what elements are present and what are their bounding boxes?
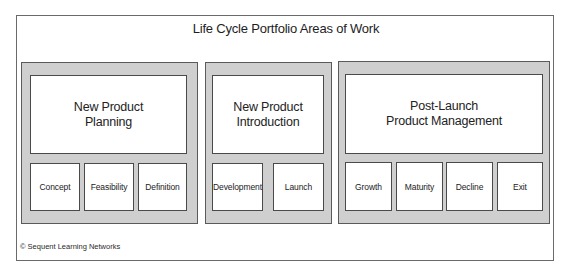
- phase-label: Launch: [285, 182, 312, 192]
- phase-decline: Decline: [446, 162, 493, 211]
- heading-label: New Product Planning: [74, 100, 143, 130]
- copyright-notice: © Sequent Learning Networks: [20, 242, 120, 251]
- phase-label: Maturity: [405, 182, 434, 192]
- phase-definition: Definition: [138, 163, 187, 211]
- phase-label: Growth: [355, 182, 382, 192]
- phase-concept: Concept: [30, 163, 80, 211]
- phase-feasibility: Feasibility: [84, 163, 134, 211]
- phase-label: Concept: [40, 182, 71, 192]
- diagram-title: Life Cycle Portfolio Areas of Work: [0, 21, 572, 36]
- phase-maturity: Maturity: [396, 162, 443, 211]
- phase-label: Decline: [456, 182, 484, 192]
- phase-exit: Exit: [497, 162, 543, 211]
- phase-label: Development: [213, 182, 262, 192]
- phase-development: Development: [212, 163, 263, 211]
- phase-label: Definition: [145, 182, 179, 192]
- heading-label: Post-Launch Product Management: [386, 99, 502, 129]
- phase-launch: Launch: [273, 163, 324, 211]
- heading-label: New Product Introduction: [233, 100, 302, 130]
- heading-post-launch-product-management: Post-Launch Product Management: [345, 74, 543, 154]
- phase-label: Feasibility: [91, 182, 128, 192]
- heading-new-product-introduction: New Product Introduction: [212, 75, 324, 154]
- heading-new-product-planning: New Product Planning: [30, 75, 187, 154]
- phase-growth: Growth: [345, 162, 392, 211]
- phase-label: Exit: [513, 182, 527, 192]
